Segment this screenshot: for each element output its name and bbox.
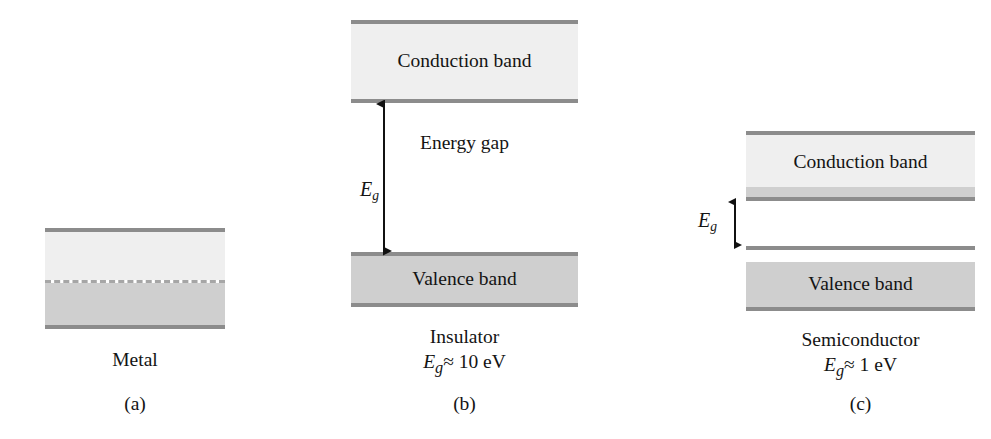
semiconductor-valence-band-top-edge [746, 246, 975, 250]
semiconductor-valence-band-bottom-edge [746, 307, 975, 311]
insulator-conduction-band-bottom-edge [351, 99, 578, 103]
insulator-valence-band-label: Valence band [351, 269, 578, 289]
semiconductor-eg-subscript: g [710, 219, 717, 234]
semiconductor-eg-letter: E [698, 209, 710, 231]
semiconductor-conduction-band-occupied-strip [746, 187, 975, 197]
insulator-gap-value-subscript: g [435, 359, 443, 377]
panel-letter-b: (b) [351, 393, 578, 415]
insulator-gap-value-relation: ≈ 10 eV [443, 351, 506, 372]
semiconductor-caption: Semiconductor [746, 328, 975, 352]
semiconductor-valence-band-label: Valence band [746, 274, 975, 294]
semiconductor-conduction-band-bottom-edge [746, 197, 975, 201]
metal-empty-states-region [45, 232, 225, 280]
panel-letter-a: (a) [45, 393, 225, 415]
semiconductor-conduction-band-label: Conduction band [746, 152, 975, 172]
semiconductor-gap-value-letter: E [824, 354, 836, 375]
metal-filled-states-region [45, 283, 225, 325]
metal-band-bottom-edge [45, 325, 225, 329]
insulator-energy-gap-label: Energy gap [351, 132, 578, 154]
metal-caption: Metal [45, 348, 225, 372]
insulator-gap-value-caption: Eg≈ 10 eV [351, 350, 578, 379]
semiconductor-eg-symbol: Eg [698, 209, 717, 235]
insulator-eg-subscript: g [372, 188, 379, 203]
energy-band-diagram: Metal (a) Conduction band Energy gap Eg … [0, 0, 991, 439]
insulator-conduction-band-label: Conduction band [351, 51, 578, 71]
insulator-gap-value-letter: E [423, 351, 435, 372]
insulator-eg-symbol: Eg [360, 178, 379, 204]
panel-letter-c: (c) [746, 393, 975, 415]
insulator-caption: Insulator [351, 325, 578, 349]
semiconductor-gap-value-subscript: g [836, 362, 844, 380]
semiconductor-gap-value-caption: Eg≈ 1 eV [746, 353, 975, 382]
insulator-eg-letter: E [360, 178, 372, 200]
semiconductor-gap-value-relation: ≈ 1 eV [844, 354, 897, 375]
insulator-valence-band-bottom-edge [351, 303, 578, 307]
